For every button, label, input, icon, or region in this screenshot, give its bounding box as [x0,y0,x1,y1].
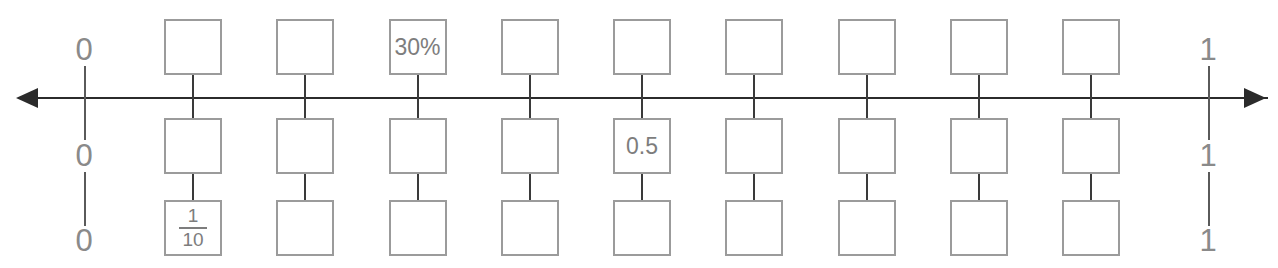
answer-box-percent-row-col7[interactable] [838,19,896,75]
connector-axis-row2 [641,98,643,118]
right-label-fraction: 1 [1185,225,1231,256]
connector-row2-row3 [304,174,306,200]
fraction-numerator: 1 [186,206,201,227]
connector-row1-axis [866,75,868,100]
connector-row2-row3 [192,174,194,200]
connector-axis-row2 [529,98,531,118]
arrow-right-icon [1244,88,1266,108]
answer-box-decimal-row-col9[interactable] [1062,118,1120,174]
connector-axis-row2 [304,98,306,118]
connector-row1-axis [417,75,419,100]
answer-box-percent-row-col1[interactable] [164,19,222,75]
answer-box-percent-row-col9[interactable] [1062,19,1120,75]
answer-box-fraction-row-col5[interactable] [613,200,671,256]
connector-row2-row3 [1090,174,1092,200]
number-line-axis [18,97,1268,99]
connector-row1-axis [978,75,980,100]
connector-row1-axis [529,75,531,100]
connector-row2-row3 [417,174,419,200]
left-label-percent: 0 [61,34,107,65]
answer-box-fraction-row-col3[interactable] [389,200,447,256]
right-tick-upper [1208,66,1210,140]
connector-row2-row3 [753,174,755,200]
connector-axis-row2 [978,98,980,118]
connector-axis-row2 [1090,98,1092,118]
answer-box-fraction-row-col9[interactable] [1062,200,1120,256]
answer-box-percent-row-col3[interactable]: 30% [389,19,447,75]
answer-box-decimal-row-col8[interactable] [950,118,1008,174]
connector-row2-row3 [641,174,643,200]
answer-box-decimal-row-col6[interactable] [725,118,783,174]
left-label-fraction: 0 [61,225,107,256]
answer-box-fraction-row-col1[interactable]: 110 [164,200,222,256]
right-label-percent: 1 [1185,34,1231,65]
answer-box-percent-row-col5[interactable] [613,19,671,75]
box-value: 30% [394,36,440,59]
fraction-value: 110 [179,206,207,250]
connector-axis-row2 [753,98,755,118]
connector-row1-axis [192,75,194,100]
connector-row1-axis [641,75,643,100]
connector-axis-row2 [417,98,419,118]
fraction-denominator: 10 [180,229,205,250]
connector-row1-axis [753,75,755,100]
answer-box-decimal-row-col5[interactable]: 0.5 [613,118,671,174]
answer-box-decimal-row-col4[interactable] [501,118,559,174]
connector-row1-axis [304,75,306,100]
number-line-diagram: 0 0 0 1 1 1 30%0.5110 [0,0,1278,268]
answer-box-percent-row-col6[interactable] [725,19,783,75]
connector-row2-row3 [978,174,980,200]
answer-box-percent-row-col4[interactable] [501,19,559,75]
left-tick-lower [84,172,86,226]
answer-box-percent-row-col2[interactable] [276,19,334,75]
answer-box-percent-row-col8[interactable] [950,19,1008,75]
connector-row2-row3 [529,174,531,200]
answer-box-decimal-row-col2[interactable] [276,118,334,174]
answer-box-fraction-row-col4[interactable] [501,200,559,256]
connector-row1-axis [1090,75,1092,100]
right-label-decimal: 1 [1185,140,1231,171]
connector-axis-row2 [192,98,194,118]
answer-box-fraction-row-col2[interactable] [276,200,334,256]
answer-box-decimal-row-col1[interactable] [164,118,222,174]
answer-box-fraction-row-col8[interactable] [950,200,1008,256]
connector-axis-row2 [866,98,868,118]
arrow-left-icon [16,88,38,108]
connector-row2-row3 [866,174,868,200]
answer-box-fraction-row-col6[interactable] [725,200,783,256]
answer-box-fraction-row-col7[interactable] [838,200,896,256]
box-value: 0.5 [626,135,658,158]
left-label-decimal: 0 [61,140,107,171]
right-tick-lower [1208,172,1210,226]
answer-box-decimal-row-col3[interactable] [389,118,447,174]
answer-box-decimal-row-col7[interactable] [838,118,896,174]
left-tick-upper [84,66,86,140]
